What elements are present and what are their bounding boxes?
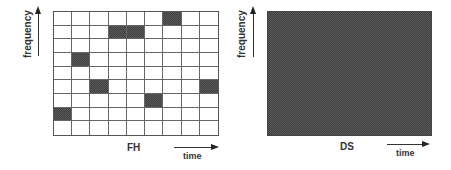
grid-cell (200, 12, 218, 26)
grid-cell (182, 67, 200, 81)
grid-cell-active (109, 26, 127, 40)
grid-cell (109, 39, 127, 53)
grid-cell (200, 53, 218, 67)
grid-cell (54, 67, 72, 81)
grid-cell (90, 53, 108, 67)
grid-cell (163, 67, 181, 81)
grid-cell (200, 67, 218, 81)
grid-cell (182, 121, 200, 135)
grid-cell (163, 94, 181, 108)
ds-frequency-arrow-icon (253, 13, 254, 57)
grid-cell (163, 108, 181, 122)
grid-cell-active (54, 108, 72, 122)
ds-frequency-label: frequency (236, 10, 247, 58)
grid-cell (145, 80, 163, 94)
fh-title: FH (127, 142, 140, 153)
grid-cell (54, 53, 72, 67)
grid-cell (90, 121, 108, 135)
grid-cell (54, 12, 72, 26)
fh-frequency-label: frequency (22, 10, 33, 58)
fh-time-frequency-grid (53, 11, 219, 136)
grid-cell (145, 39, 163, 53)
grid-cell (127, 53, 145, 67)
grid-cell (90, 26, 108, 40)
grid-cell (54, 80, 72, 94)
grid-cell (72, 67, 90, 81)
ds-spread-spectrum-block (267, 11, 432, 136)
grid-cell (127, 39, 145, 53)
grid-cell (163, 121, 181, 135)
grid-cell (72, 94, 90, 108)
fh-time-label: time (183, 151, 202, 161)
grid-cell-active (127, 26, 145, 40)
grid-cell (200, 108, 218, 122)
grid-cell (163, 80, 181, 94)
grid-cell (109, 12, 127, 26)
grid-cell (200, 121, 218, 135)
grid-cell (200, 94, 218, 108)
fh-frequency-arrow-icon (38, 13, 39, 56)
grid-cell (145, 67, 163, 81)
grid-cell (54, 121, 72, 135)
grid-cell (200, 39, 218, 53)
grid-cell-active (163, 12, 181, 26)
grid-cell-active (90, 80, 108, 94)
grid-cell (72, 26, 90, 40)
grid-cell (72, 108, 90, 122)
grid-cell (72, 39, 90, 53)
fh-panel: frequency FH time (0, 0, 230, 170)
grid-cell (90, 108, 108, 122)
grid-cell (163, 26, 181, 40)
grid-cell (127, 108, 145, 122)
grid-cell (109, 80, 127, 94)
grid-cell (54, 26, 72, 40)
ds-time-arrow-icon (387, 144, 423, 145)
grid-cell (163, 53, 181, 67)
grid-cell (200, 26, 218, 40)
grid-cell (109, 53, 127, 67)
grid-cell (127, 94, 145, 108)
grid-cell (109, 94, 127, 108)
grid-cell-active (145, 94, 163, 108)
grid-cell (72, 80, 90, 94)
grid-cell (145, 108, 163, 122)
fh-time-arrow-icon (174, 147, 212, 148)
grid-cell (90, 39, 108, 53)
grid-cell (145, 12, 163, 26)
grid-cell-active (200, 80, 218, 94)
grid-cell (145, 26, 163, 40)
grid-cell (127, 67, 145, 81)
grid-cell (145, 121, 163, 135)
grid-cell (109, 108, 127, 122)
grid-cell (127, 121, 145, 135)
grid-cell (182, 39, 200, 53)
grid-cell (54, 39, 72, 53)
ds-time-label: time (396, 148, 415, 158)
ds-panel: frequency DS time (230, 0, 451, 170)
grid-cell (90, 94, 108, 108)
grid-cell (90, 12, 108, 26)
grid-cell-active (72, 53, 90, 67)
ds-title: DS (340, 141, 354, 152)
grid-cell (182, 12, 200, 26)
grid-cell (163, 39, 181, 53)
grid-cell (145, 53, 163, 67)
grid-cell (127, 12, 145, 26)
grid-cell (109, 121, 127, 135)
grid-cell (127, 80, 145, 94)
grid-cell (90, 67, 108, 81)
grid-cell (182, 108, 200, 122)
grid-cell (182, 26, 200, 40)
grid-cell (109, 67, 127, 81)
grid-cell (182, 53, 200, 67)
grid-cell (182, 94, 200, 108)
grid-cell (72, 12, 90, 26)
grid-cell (182, 80, 200, 94)
grid-cell (72, 121, 90, 135)
grid-cell (54, 94, 72, 108)
